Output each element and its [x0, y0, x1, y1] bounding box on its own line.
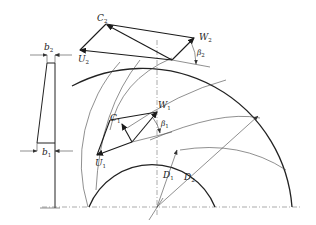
label-w2: W2 — [199, 32, 212, 43]
blade — [96, 60, 140, 190]
side-c1-u1 — [97, 120, 110, 155]
label-u1: U1 — [95, 158, 106, 169]
outer-arc-left — [81, 62, 120, 207]
outer-circle-d2 — [72, 68, 292, 207]
vector-w2 — [172, 38, 194, 60]
vector-c1 — [122, 124, 132, 142]
beta2-arc — [191, 42, 196, 64]
label-u2: U2 — [78, 54, 89, 65]
impeller-profile — [37, 63, 55, 208]
vector-u2 — [80, 50, 172, 60]
tangent-inlet — [132, 132, 172, 142]
blade — [180, 148, 286, 171]
label-b2: b2 — [44, 42, 53, 53]
vector-u1 — [97, 142, 132, 155]
tangent-outlet — [172, 60, 210, 67]
side-c2-u2 — [80, 24, 106, 50]
label-c2: C2 — [97, 13, 107, 24]
label-beta1: β1 — [160, 119, 169, 129]
label-d2: D2 — [183, 172, 195, 183]
center-tick — [149, 198, 163, 220]
label-beta2: β2 — [196, 48, 205, 58]
label-b1: b1 — [42, 147, 51, 158]
impeller-diagram: b2 b1 C2 U2 W2 β2 C1 W1 U1 β1 D1 D2 — [0, 0, 316, 225]
label-d1: D1 — [162, 170, 174, 181]
meridional-section — [20, 55, 73, 208]
vector-c2 — [107, 25, 172, 60]
outlet-velocity-triangle — [80, 24, 210, 67]
blade — [127, 80, 226, 128]
beta1-arc — [153, 118, 160, 133]
label-c1: C1 — [110, 113, 120, 124]
label-w1: W1 — [158, 100, 171, 111]
inner-circle-d1 — [89, 165, 215, 207]
